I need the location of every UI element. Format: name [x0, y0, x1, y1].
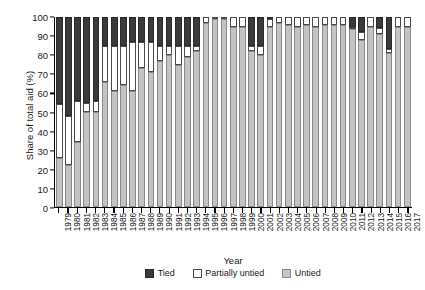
bar-segment-tied — [138, 17, 145, 42]
legend-label: Partially untied — [205, 268, 264, 278]
bar-1982 — [83, 17, 90, 207]
bar-2004 — [285, 17, 292, 207]
bar-segment-partial — [56, 104, 63, 157]
bar-segment-tied — [74, 17, 81, 101]
legend-label: Untied — [295, 268, 321, 278]
bar-segment-untied — [230, 27, 237, 208]
x-tick-label: 1980 — [64, 213, 71, 255]
x-tick-label: 2003 — [276, 213, 283, 255]
bar-2007 — [312, 17, 319, 207]
bar-segment-untied — [376, 34, 383, 207]
bar-segment-untied — [74, 142, 81, 207]
x-tick-label: 2007 — [312, 213, 319, 255]
y-tick-label: 60 — [37, 88, 48, 99]
bar-1986 — [120, 17, 127, 207]
x-tick-label: 1996 — [211, 213, 218, 255]
bar-2017 — [404, 17, 411, 207]
bar-segment-untied — [312, 27, 319, 208]
bar-segment-untied — [239, 27, 246, 208]
bar-1993 — [184, 17, 191, 207]
bar-segment-untied — [120, 85, 127, 207]
bar-segment-partial — [367, 17, 374, 27]
y-tick-label: 70 — [37, 69, 48, 80]
x-tick-label: 1994 — [193, 213, 200, 255]
legend-item-tied: Tied — [145, 268, 175, 278]
x-tick-label: 1997 — [220, 213, 227, 255]
plot-area — [54, 17, 412, 208]
bar-segment-untied — [285, 25, 292, 207]
x-tick-label: 2012 — [358, 213, 365, 255]
bar-segment-untied — [175, 65, 182, 208]
bar-series-group — [55, 17, 412, 207]
x-tick-label: 1987 — [129, 213, 136, 255]
bar-1984 — [102, 17, 109, 207]
x-tick-label: 1984 — [101, 213, 108, 255]
bar-segment-untied — [148, 72, 155, 207]
bar-segment-partial — [166, 46, 173, 56]
bar-segment-untied — [65, 165, 72, 207]
bar-segment-untied — [221, 19, 228, 207]
bar-segment-partial — [120, 46, 127, 86]
bar-1985 — [111, 17, 118, 207]
bar-segment-tied — [358, 17, 365, 32]
x-tick-label: 1989 — [147, 213, 154, 255]
bar-segment-partial — [129, 42, 136, 91]
x-tick-label: 2011 — [349, 213, 356, 255]
bar-segment-tied — [56, 17, 63, 104]
bar-1989 — [148, 17, 155, 207]
x-tick-label: 1988 — [138, 213, 145, 255]
bar-segment-untied — [404, 27, 411, 208]
bar-segment-untied — [111, 91, 118, 207]
bar-segment-untied — [93, 112, 100, 207]
bar-1995 — [203, 17, 210, 207]
bar-segment-untied — [129, 91, 136, 207]
bar-segment-tied — [248, 17, 255, 46]
bar-2014 — [376, 17, 383, 207]
bar-segment-tied — [184, 17, 191, 46]
bar-segment-tied — [65, 17, 72, 116]
bar-segment-untied — [340, 25, 347, 207]
bar-segment-tied — [193, 17, 200, 46]
bar-segment-untied — [276, 23, 283, 207]
bar-segment-partial — [111, 46, 118, 92]
bar-segment-partial — [395, 17, 402, 27]
bar-segment-untied — [193, 51, 200, 207]
x-tick-label: 2017 — [404, 213, 411, 255]
bar-1990 — [157, 17, 164, 207]
x-tick-label: 2001 — [257, 213, 264, 255]
legend-item-untied: Untied — [282, 268, 321, 278]
bar-segment-untied — [184, 57, 191, 207]
bar-segment-partial — [175, 46, 182, 65]
y-tick-label: 30 — [37, 145, 48, 156]
legend-swatch-partial — [193, 269, 202, 278]
x-tick-label: 1982 — [83, 213, 90, 255]
x-tick-label: 2002 — [266, 213, 273, 255]
bar-segment-tied — [257, 17, 264, 46]
bar-segment-tied — [83, 17, 90, 102]
bar-segment-partial — [303, 17, 310, 25]
x-tick-label: 1991 — [165, 213, 172, 255]
x-tick-label: 1990 — [156, 213, 163, 255]
bar-2000 — [248, 17, 255, 207]
bar-2015 — [386, 17, 393, 207]
y-tick-label: 20 — [37, 164, 48, 175]
y-tick-label: 80 — [37, 50, 48, 61]
bar-segment-tied — [376, 17, 383, 28]
x-tick-label: 2000 — [248, 213, 255, 255]
x-tick-label: 1995 — [202, 213, 209, 255]
legend-swatch-tied — [145, 269, 154, 278]
bar-segment-tied — [157, 17, 164, 46]
x-tick-label: 2006 — [303, 213, 310, 255]
bar-segment-partial — [294, 17, 301, 27]
bar-1980 — [65, 17, 72, 207]
bar-segment-untied — [257, 55, 264, 207]
bar-segment-untied — [395, 27, 402, 208]
y-tick-label: 90 — [37, 31, 48, 42]
bar-segment-partial — [65, 116, 72, 165]
x-tick-label: 2014 — [377, 213, 384, 255]
legend-swatch-untied — [282, 269, 291, 278]
bar-segment-tied — [166, 17, 173, 46]
bar-2011 — [349, 17, 356, 207]
bar-segment-untied — [138, 68, 145, 207]
bar-segment-partial — [331, 17, 338, 25]
